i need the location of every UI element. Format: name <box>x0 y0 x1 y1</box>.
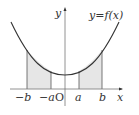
tick-label-b: b <box>99 91 106 104</box>
x-axis-label: x <box>117 91 124 104</box>
graph-canvas: y y=f(x) −b −a O a b x <box>0 0 139 115</box>
y-axis-label: y <box>54 7 62 20</box>
y-axis-arrow-icon <box>64 7 67 11</box>
function-label: y=f(x) <box>88 9 123 22</box>
function-graph-diagram: y y=f(x) −b −a O a b x <box>0 0 139 115</box>
tick-label-a: a <box>75 91 82 104</box>
origin-label: O <box>55 91 64 104</box>
tick-label-minus-b: −b <box>15 91 31 104</box>
tick-label-minus-a: −a <box>39 91 55 104</box>
